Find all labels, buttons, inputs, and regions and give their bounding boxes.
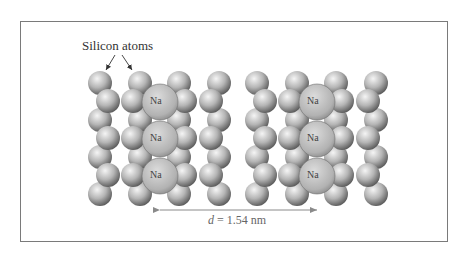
na-label: Na xyxy=(307,132,319,143)
na-label: Na xyxy=(307,95,319,106)
silicon-atoms-label: Silicon atoms xyxy=(82,38,153,54)
na-label: Na xyxy=(150,132,162,143)
na-label: Na xyxy=(307,169,319,180)
distance-variable: d xyxy=(208,213,214,227)
distance-label: d = 1.54 nm xyxy=(208,213,266,228)
na-label: Na xyxy=(150,95,162,106)
na-label: Na xyxy=(150,169,162,180)
distance-value: = 1.54 nm xyxy=(217,213,266,227)
